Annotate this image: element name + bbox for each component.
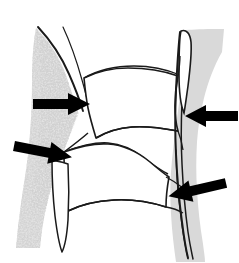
figure-container: Lateral line drawing of two adjacent ver… xyxy=(0,0,239,263)
vertebral-illustration-svg xyxy=(0,0,239,263)
